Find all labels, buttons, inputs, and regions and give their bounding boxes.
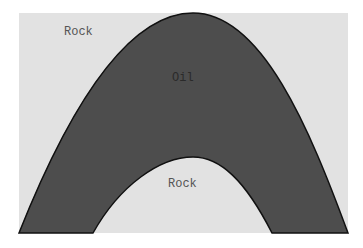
oil-trap-diagram: Rock Oil Rock	[0, 0, 363, 248]
top-rock-label: Rock	[64, 25, 93, 39]
bottom-rock-label: Rock	[168, 177, 197, 191]
oil-label: Oil	[172, 71, 194, 85]
